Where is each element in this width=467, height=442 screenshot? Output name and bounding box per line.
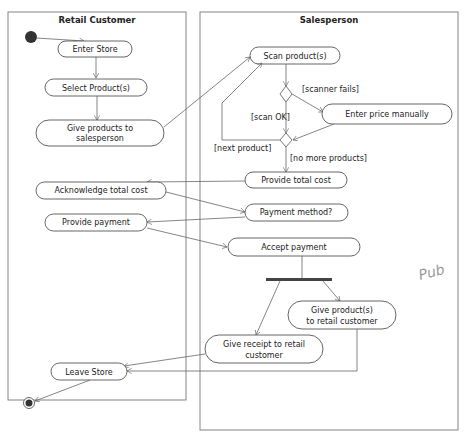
guard-no-more-products: [no more products]: [290, 154, 367, 163]
guard-scanner-fails: [scanner fails]: [302, 85, 359, 94]
activity-give-products-to-salesperson[interactable]: Give products to salesperson: [36, 120, 164, 146]
svg-text:Provide payment: Provide payment: [62, 218, 130, 227]
svg-text:Accept payment: Accept payment: [261, 243, 326, 252]
activity-scan-products[interactable]: Scan product(s): [250, 47, 340, 64]
fork-bar: [266, 278, 332, 281]
svg-text:salesperson: salesperson: [76, 134, 124, 143]
svg-text:Acknowledge total cost: Acknowledge total cost: [54, 186, 147, 195]
activity-accept-payment[interactable]: Accept payment: [228, 238, 360, 256]
activity-diagram: Retail Customer Salesperson Enter Store …: [0, 0, 467, 442]
svg-text:Provide total cost: Provide total cost: [261, 176, 331, 185]
activity-provide-total-cost[interactable]: Provide total cost: [245, 172, 347, 188]
svg-text:Enter Store: Enter Store: [72, 45, 117, 54]
initial-node: [25, 31, 37, 43]
activity-give-receipt[interactable]: Give receipt to retail customer: [205, 335, 323, 363]
activity-provide-payment[interactable]: Provide payment: [45, 214, 147, 231]
activity-enter-store[interactable]: Enter Store: [58, 41, 132, 57]
svg-text:Leave Store: Leave Store: [65, 368, 113, 377]
svg-text:Select Product(s): Select Product(s): [62, 84, 130, 93]
svg-text:to retail customer: to retail customer: [306, 317, 378, 326]
decision-scanner: [280, 86, 292, 102]
activity-give-products-to-customer[interactable]: Give product(s) to retail customer: [288, 301, 396, 329]
svg-text:Payment method?: Payment method?: [260, 208, 333, 217]
activity-payment-method[interactable]: Payment method?: [245, 204, 348, 221]
decision-more-products: [280, 133, 292, 147]
guard-next-product: [next product]: [214, 144, 271, 153]
svg-text:Scan product(s): Scan product(s): [263, 52, 326, 61]
guard-scan-ok: [scan OK]: [251, 113, 290, 122]
svg-text:Enter price manually: Enter price manually: [345, 110, 429, 119]
svg-text:customer: customer: [245, 351, 283, 360]
svg-text:Give products to: Give products to: [67, 124, 133, 133]
svg-text:Give product(s): Give product(s): [311, 306, 373, 315]
handwritten-note: Pub: [417, 261, 446, 283]
lane-retail-customer: [8, 12, 186, 400]
lane-title-salesperson: Salesperson: [300, 15, 359, 25]
svg-text:Give receipt to retail: Give receipt to retail: [223, 340, 305, 349]
activity-leave-store[interactable]: Leave Store: [51, 363, 127, 380]
activity-enter-price-manually[interactable]: Enter price manually: [322, 104, 452, 124]
final-node: [24, 398, 35, 409]
activity-acknowledge-total-cost[interactable]: Acknowledge total cost: [36, 182, 166, 199]
activity-select-products[interactable]: Select Product(s): [45, 79, 147, 96]
lane-title-customer: Retail Customer: [59, 15, 137, 25]
